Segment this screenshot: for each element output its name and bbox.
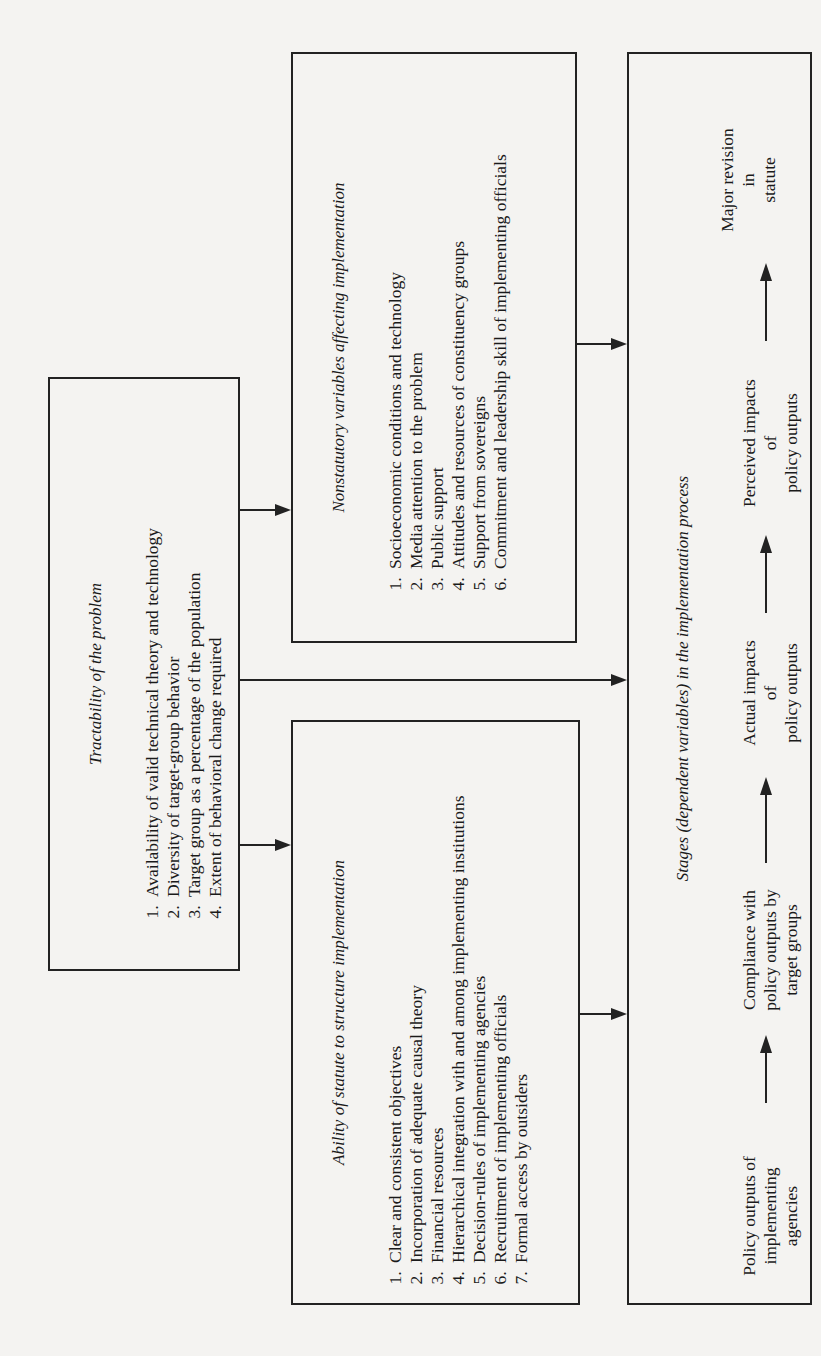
list-item: Extent of behavioral change required (205, 528, 226, 901)
stage-arrow-line (765, 795, 767, 863)
statute-title: Ability of statute to structure implemen… (329, 722, 349, 1303)
list-item: Hierarchical integration with and among … (448, 730, 469, 1267)
list-item: Decision-rules of implementing agencies (469, 730, 490, 1267)
list-item: Diversity of target-group behavior (163, 528, 184, 901)
stage-policy-outputs: Policy outputs of implementing agencies (739, 1141, 802, 1291)
stages-title: Stages (dependent variables) in the impl… (673, 54, 693, 1303)
list-item: Media attention to the problem (406, 62, 427, 573)
list-item: Clear and consistent objectives (385, 730, 406, 1267)
arrow-right-icon (760, 1035, 772, 1053)
connector-nonstatutory-stages (577, 343, 611, 345)
arrow-down-icon (275, 839, 291, 851)
tractability-box: Tractability of the problem Availability… (48, 377, 240, 971)
connector-tractability-stages (240, 679, 611, 681)
arrow-right-icon (760, 777, 772, 795)
list-item: Socioeconomic conditions and technology (385, 62, 406, 573)
tractability-list: Availability of valid technical theory a… (142, 528, 226, 929)
list-item: Availability of valid technical theory a… (142, 528, 163, 901)
list-item: Public support (427, 62, 448, 573)
statute-box: Ability of statute to structure implemen… (291, 720, 580, 1305)
arrow-down-icon (611, 338, 627, 350)
arrow-down-icon (275, 504, 291, 516)
nonstatutory-box: Nonstatutory variables affecting impleme… (291, 52, 577, 643)
stage-arrow-line (765, 281, 767, 341)
stage-arrow-line (765, 553, 767, 613)
stage-compliance: Compliance with policy outputs by target… (739, 865, 802, 1035)
implementation-framework-diagram: Tractability of the problem Availability… (0, 0, 821, 1356)
statute-list: Clear and consistent objectives Incorpor… (385, 730, 532, 1295)
connector-tractability-statute (240, 844, 275, 846)
stage-arrow-line (765, 1053, 767, 1103)
list-item: Recruitment of implementing officials (490, 730, 511, 1267)
nonstatutory-title: Nonstatutory variables affecting impleme… (329, 54, 349, 641)
connector-statute-stages (580, 1013, 611, 1015)
list-item: Target group as a percentage of the popu… (184, 528, 205, 901)
connector-tractability-nonstatutory (240, 509, 275, 511)
arrow-down-icon (611, 1008, 627, 1020)
list-item: Attitudes and resources of constituency … (448, 62, 469, 573)
arrow-right-icon (760, 535, 772, 553)
nonstatutory-list: Socioeconomic conditions and technology … (385, 62, 511, 601)
stage-major-revision: Major revision in statute (717, 105, 780, 255)
arrow-down-icon (611, 674, 627, 686)
list-item: Support from sovereigns (469, 62, 490, 573)
stage-actual-impacts: Actual impacts of policy outputs (739, 618, 802, 768)
list-item: Incorporation of adequate causal theory (406, 730, 427, 1267)
tractability-title: Tractability of the problem (86, 379, 106, 969)
list-item: Commitment and leadership skill of imple… (490, 62, 511, 573)
stage-perceived-impacts: Perceived impacts of policy outputs (739, 358, 802, 528)
stages-box: Stages (dependent variables) in the impl… (627, 52, 812, 1305)
list-item: Financial resources (427, 730, 448, 1267)
arrow-right-icon (760, 263, 772, 281)
list-item: Formal access by outsiders (511, 730, 532, 1267)
